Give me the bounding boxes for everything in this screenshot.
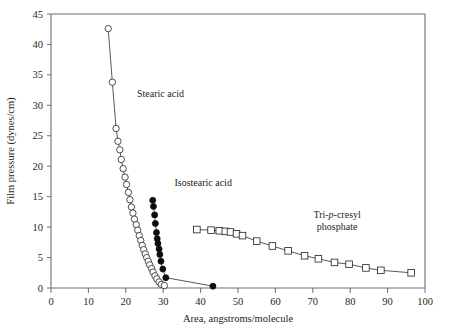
data-point-marker (128, 204, 134, 210)
data-point-marker (130, 210, 136, 216)
y-axis-ticks: 051015202530354045 (33, 9, 52, 294)
data-point-marker (113, 125, 119, 131)
data-point-marker (150, 197, 156, 203)
x-tick-label: 80 (345, 296, 356, 307)
data-point-marker (127, 197, 133, 203)
series-3 (194, 226, 415, 276)
y-tick-label: 30 (33, 100, 44, 111)
data-point-marker (210, 283, 216, 289)
x-axis-title: Area, angstroms/molecule (183, 313, 294, 324)
x-tick-label: 10 (83, 296, 94, 307)
x-axis-ticks: 0102030405060708090100 (48, 288, 433, 307)
data-point-marker (346, 261, 353, 268)
y-axis-title: Film pressure (dynes/cm) (5, 97, 17, 205)
x-tick-label: 20 (121, 296, 132, 307)
y-tick-label: 40 (33, 39, 44, 50)
x-tick-label: 30 (158, 296, 169, 307)
data-point-marker (408, 269, 415, 276)
tri-suffix-text: -cresyl (334, 209, 361, 220)
data-point-marker (155, 241, 161, 247)
series-label-isostearic-acid: Isostearic acid (174, 177, 231, 188)
data-point-marker (253, 238, 260, 245)
x-tick-label: 100 (417, 296, 433, 307)
tri-prefix-text: Tri- (313, 209, 328, 220)
data-point-marker (153, 230, 159, 236)
series-connector-line (153, 200, 213, 286)
series-connector-line (108, 29, 164, 286)
data-point-marker (301, 252, 308, 259)
series-2 (150, 197, 216, 289)
data-point-marker (150, 203, 156, 209)
y-tick-label: 15 (33, 191, 44, 202)
y-tick-label: 25 (33, 130, 44, 141)
data-point-marker (105, 25, 111, 31)
data-point-marker (125, 189, 131, 195)
series-label-tri-p-cresyl-line1: Tri-p-cresyl (313, 209, 361, 220)
series-label-tri-p-cresyl-line2: phosphate (317, 221, 358, 232)
y-tick-label: 35 (33, 69, 44, 80)
data-point-marker (122, 174, 128, 180)
data-point-marker (208, 227, 215, 234)
data-point-marker (331, 259, 338, 266)
y-tick-label: 5 (38, 252, 43, 263)
data-point-marker (315, 255, 322, 262)
data-point-marker (161, 282, 167, 288)
data-point-marker (152, 220, 158, 226)
y-tick-label: 0 (38, 283, 43, 294)
y-tick-label: 45 (33, 9, 44, 20)
data-point-marker (152, 212, 158, 218)
x-tick-label: 40 (195, 296, 206, 307)
data-point-marker (123, 181, 129, 187)
data-point-marker (160, 266, 166, 272)
x-tick-label: 90 (382, 296, 393, 307)
data-point-marker (109, 79, 115, 85)
x-tick-label: 50 (233, 296, 244, 307)
chart-canvas: 051015202530354045 010203040506070809010… (0, 0, 449, 333)
data-point-marker (156, 246, 162, 252)
axes-group (51, 14, 425, 288)
data-point-marker (117, 147, 123, 153)
y-tick-label: 10 (33, 222, 44, 233)
series-connector-line (197, 230, 411, 273)
x-tick-label: 70 (308, 296, 319, 307)
data-point-marker (239, 232, 246, 239)
data-point-marker (118, 156, 124, 162)
data-point-marker (115, 138, 121, 144)
data-point-marker (285, 248, 292, 255)
data-point-marker (163, 275, 169, 281)
x-tick-label: 0 (48, 296, 53, 307)
data-point-marker (378, 267, 385, 274)
y-tick-label: 20 (33, 161, 44, 172)
x-tick-label: 60 (270, 296, 281, 307)
data-point-marker (120, 165, 126, 171)
data-point-marker (194, 226, 201, 233)
data-point-marker (158, 258, 164, 264)
data-point-marker (363, 265, 370, 272)
data-point-marker (269, 243, 276, 250)
series-label-stearic-acid: Stearic acid (137, 88, 184, 99)
film-pressure-chart-figure: 051015202530354045 010203040506070809010… (0, 0, 449, 333)
data-series-layer (105, 25, 414, 289)
data-point-marker (157, 252, 163, 258)
